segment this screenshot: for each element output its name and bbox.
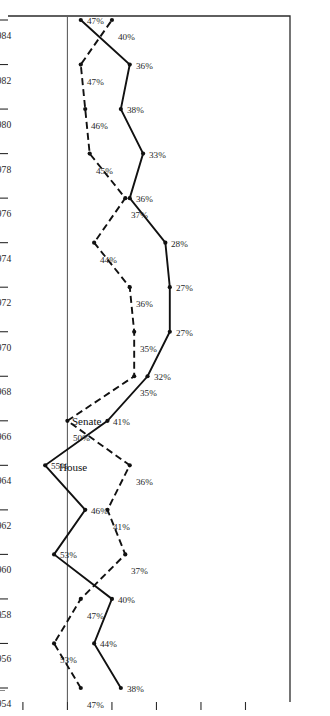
x-tick-label: 1960 (0, 564, 11, 575)
point-label: 46% (91, 122, 108, 131)
data-point (168, 330, 172, 334)
data-point (128, 62, 132, 66)
point-label: 46% (91, 507, 108, 516)
x-tick-label: 1976 (0, 208, 11, 219)
x-tick-label: 1958 (0, 609, 11, 620)
data-point (123, 196, 127, 200)
chart-plot-area: 1954195619581960196219641966196819701972… (0, 0, 330, 716)
x-tick-label: 1956 (0, 653, 11, 664)
point-label: 44% (100, 256, 117, 265)
data-point (168, 285, 172, 289)
data-point (132, 374, 136, 378)
data-point (163, 241, 167, 245)
point-label: 47% (87, 78, 104, 87)
data-point (79, 18, 83, 22)
data-point (119, 686, 123, 690)
chart-svg (0, 0, 330, 716)
data-point (92, 641, 96, 645)
data-point (132, 330, 136, 334)
point-label: 33% (149, 151, 166, 160)
data-point (83, 508, 87, 512)
data-point (128, 196, 132, 200)
data-point (128, 463, 132, 467)
data-point (92, 241, 96, 245)
data-point (119, 107, 123, 111)
point-label: 36% (136, 62, 153, 71)
x-tick-label: 1964 (0, 475, 11, 486)
point-label: 53% (60, 656, 77, 665)
point-label: 32% (154, 373, 171, 382)
x-tick-label: 1978 (0, 164, 11, 175)
data-point (105, 419, 109, 423)
point-label: 41% (113, 523, 130, 532)
point-label: 37% (131, 211, 148, 220)
page-edge-mark-bottom (0, 690, 5, 691)
point-label: 41% (113, 418, 130, 427)
point-label: 47% (87, 17, 104, 26)
data-point (43, 463, 47, 467)
x-tick-label: 1974 (0, 253, 11, 264)
point-label: 36% (136, 478, 153, 487)
data-point (110, 18, 114, 22)
data-point (79, 597, 83, 601)
point-label: 27% (176, 329, 193, 338)
point-label: 40% (118, 33, 135, 42)
data-point (88, 151, 92, 155)
point-label: 44% (100, 640, 117, 649)
data-point (52, 641, 56, 645)
point-label: 36% (136, 300, 153, 309)
data-point (65, 419, 69, 423)
x-tick-label: 1966 (0, 431, 11, 442)
point-label: 40% (118, 596, 135, 605)
point-label: 36% (136, 195, 153, 204)
point-label: 47% (87, 701, 104, 710)
point-label: 27% (176, 284, 193, 293)
data-point (52, 552, 56, 556)
page-edge-mark-top (0, 617, 5, 618)
x-tick-label: 1972 (0, 297, 11, 308)
point-label: 50% (73, 434, 90, 443)
point-label: 38% (127, 685, 144, 694)
figure-canvas: 1954195619581960196219641966196819701972… (0, 0, 330, 716)
series-label-house: House (59, 461, 87, 473)
point-label: 28% (171, 240, 188, 249)
data-point (123, 552, 127, 556)
point-label: 37% (131, 567, 148, 576)
point-label: 45% (96, 167, 113, 176)
point-label: 47% (87, 612, 104, 621)
chart-axis (8, 16, 290, 702)
data-point (128, 285, 132, 289)
x-tick-label: 1980 (0, 119, 11, 130)
point-label: 53% (60, 551, 77, 560)
data-point (110, 597, 114, 601)
series-label-senate: Senate (72, 415, 101, 427)
x-tick-label: 1970 (0, 342, 11, 353)
point-label: 35% (140, 389, 157, 398)
x-tick-label: 1954 (0, 698, 11, 709)
data-point (79, 62, 83, 66)
point-label: 35% (140, 345, 157, 354)
x-tick-label: 1982 (0, 75, 11, 86)
data-point (145, 374, 149, 378)
rotated-figure-group: 1954195619581960196219641966196819701972… (0, 0, 330, 716)
x-tick-label: 1968 (0, 386, 11, 397)
x-tick-label: 1962 (0, 520, 11, 531)
x-tick-label: 1984 (0, 30, 11, 41)
data-point (83, 107, 87, 111)
data-point (79, 686, 83, 690)
point-label: 38% (127, 106, 144, 115)
data-point (141, 151, 145, 155)
